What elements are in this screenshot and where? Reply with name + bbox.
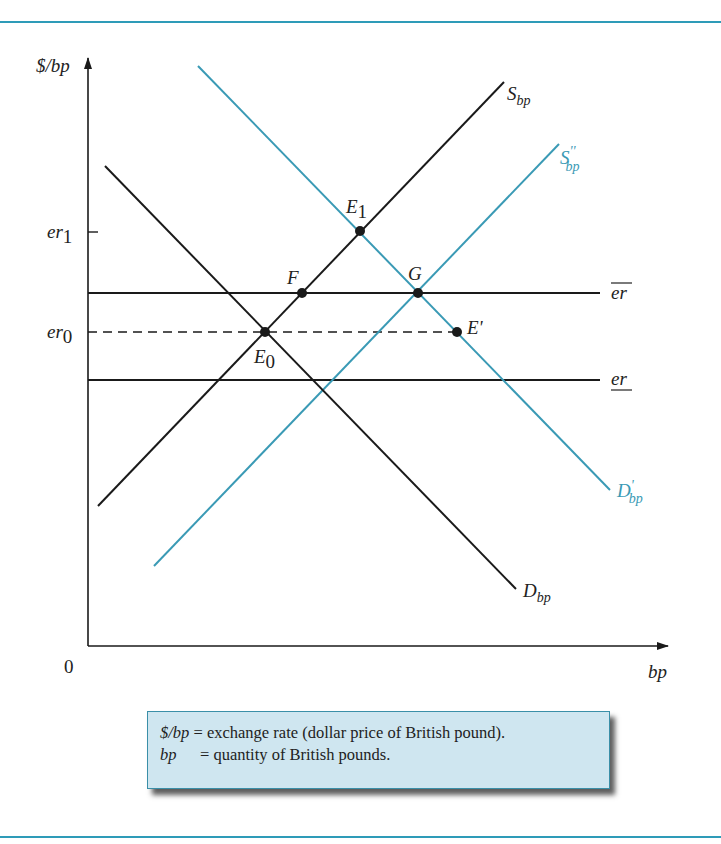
s-bp-label: Sbp	[507, 83, 531, 108]
point-f	[297, 288, 307, 298]
legend-symbol-rate: $/bp	[160, 722, 189, 744]
eprime-label: E'	[466, 317, 484, 338]
d-bp-label: Dbp	[522, 580, 551, 605]
bottom-rule	[0, 836, 721, 838]
e0-label: E0	[253, 346, 275, 372]
legend-row-quantity: bp= quantity of British pounds.	[160, 744, 609, 766]
f-label: F	[286, 267, 299, 288]
origin-label: 0	[64, 656, 74, 677]
point-g	[413, 288, 423, 298]
legend-text-quantity: = quantity of British pounds.	[200, 745, 390, 764]
d-bp-curve	[105, 166, 516, 589]
g-label: G	[408, 263, 422, 284]
x-axis-label: bp	[648, 661, 667, 682]
legend-symbol-quantity: bp	[160, 744, 200, 766]
d1-bp-curve	[198, 66, 610, 490]
er0-label: er0	[47, 321, 72, 347]
point-e1	[355, 226, 365, 236]
er-lower-label: er	[611, 368, 627, 389]
d1-bp-label: D'bp	[616, 478, 643, 506]
y-axis-label: $/bp	[36, 55, 70, 76]
er-upper-label: er	[611, 282, 627, 303]
point-eprime	[452, 327, 462, 337]
s2-bp-label: S''bp	[560, 144, 580, 174]
legend-text-rate: = exchange rate (dollar price of British…	[189, 723, 505, 742]
legend-box: $/bp = exchange rate (dollar price of Br…	[147, 711, 610, 789]
legend-row-exchange-rate: $/bp = exchange rate (dollar price of Br…	[160, 722, 609, 744]
point-e0	[260, 327, 270, 337]
er1-label: er1	[47, 221, 72, 247]
e1-label: E1	[345, 196, 367, 222]
